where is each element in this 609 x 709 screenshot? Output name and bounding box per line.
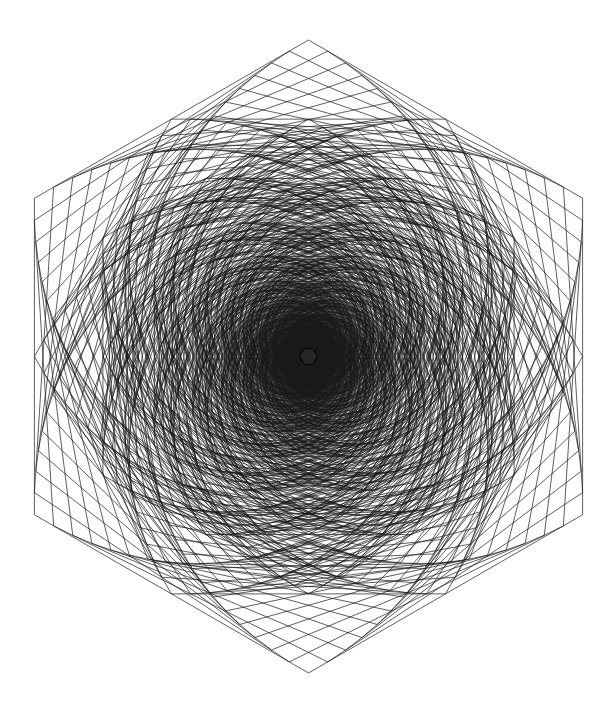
hexagon-string-art-canvas [0,0,609,709]
dense-center [300,348,318,366]
